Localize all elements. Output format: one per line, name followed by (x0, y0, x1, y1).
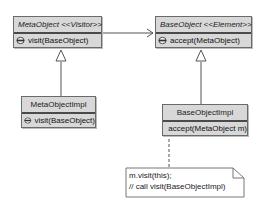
operation-icon (24, 116, 32, 125)
operation-label: visit(BaseObject) (35, 114, 95, 127)
operation-label: accept(MetaObject m) (168, 122, 247, 135)
class-metaobjectimpl[interactable]: MetaObjectImpl visit(BaseObject) (21, 96, 96, 128)
note-text: m.visit(this); // call visit(BaseObjectI… (129, 170, 225, 192)
class-name: BaseObjectImpl (163, 105, 247, 122)
generalization-arrowhead-base (196, 50, 206, 61)
note-line: m.visit(this); (129, 170, 225, 181)
operation: accept(MetaObject) (156, 34, 251, 47)
operation: visit(BaseObject) (14, 34, 101, 47)
class-baseobject[interactable]: BaseObject <<Element>> accept(MetaObject… (155, 16, 252, 48)
operation-icon (16, 36, 25, 45)
class-name: MetaObject <<Visitor>> (14, 17, 101, 34)
operation: accept(MetaObject m) (163, 122, 247, 135)
operation: visit(BaseObject) (22, 114, 95, 127)
operation-label: accept(MetaObject) (170, 34, 240, 47)
operation-icon (158, 36, 167, 45)
class-name: BaseObject <<Element>> (156, 17, 251, 34)
class-name: MetaObjectImpl (22, 97, 95, 114)
generalization-arrowhead-meta (56, 50, 66, 61)
class-baseobjectimpl[interactable]: BaseObjectImpl accept(MetaObject m) (162, 104, 248, 136)
class-metaobject[interactable]: MetaObject <<Visitor>> visit(BaseObject) (13, 16, 102, 48)
note-line: // call visit(BaseObjectImpl) (129, 181, 225, 192)
operation-label: visit(BaseObject) (28, 34, 88, 47)
